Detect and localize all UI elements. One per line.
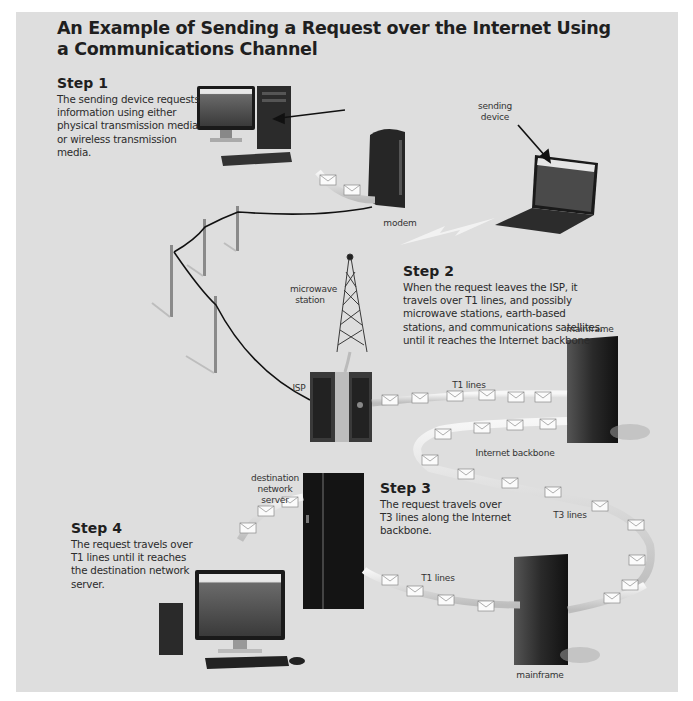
step-1-heading: Step 1: [57, 75, 207, 92]
step-3-text: The request travels over T3 lines along …: [380, 498, 515, 538]
step-4: Step 4 The request travels over T1 lines…: [71, 520, 196, 591]
label-modem: modem: [380, 218, 420, 229]
step-3-heading: Step 3: [380, 480, 515, 497]
label-t3-lines: T3 lines: [550, 510, 590, 521]
step-4-text: The request travels over T1 lines until …: [71, 538, 196, 591]
mainframe-top: [567, 336, 650, 443]
figure-title: An Example of Sending a Request over the…: [57, 18, 617, 60]
step-4-heading: Step 4: [71, 520, 196, 537]
microwave-tower: [337, 254, 367, 372]
label-destination-network-server: destination network server: [250, 473, 300, 506]
utility-poles: [152, 206, 372, 400]
step-2-heading: Step 2: [403, 263, 608, 280]
label-t1-lines-bottom: T1 lines: [418, 573, 458, 584]
step-1-text: The sending device requests information …: [57, 93, 207, 159]
label-sending-device: sending device: [465, 101, 525, 123]
label-microwave-station: microwave station: [290, 284, 330, 306]
label-isp: ISP: [289, 383, 309, 394]
sending-laptop: [495, 155, 598, 234]
label-t1-lines-top: T1 lines: [449, 380, 489, 391]
step-2-text: When the request leaves the ISP, it trav…: [403, 281, 608, 347]
sending-desktop-computer: [197, 86, 292, 166]
step-1: Step 1 The sending device requests infor…: [57, 75, 207, 159]
label-internet-backbone: Internet backbone: [475, 448, 555, 459]
label-mainframe-bottom: mainframe: [515, 670, 565, 681]
step-3: Step 3 The request travels over T3 lines…: [380, 480, 515, 538]
label-mainframe-top: mainframe: [565, 324, 615, 335]
destination-network-server: [303, 473, 364, 609]
isp-server: [310, 372, 372, 442]
modem-device: [368, 129, 405, 208]
